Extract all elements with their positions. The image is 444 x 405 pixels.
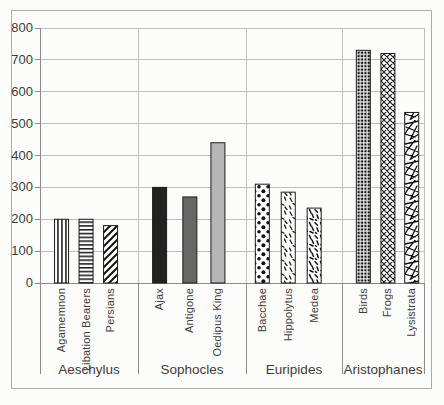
- bar-label-persians: Persians: [103, 288, 118, 332]
- bar-label-lysistrata: Lysistrata: [404, 288, 419, 337]
- bar-lysistrata: [405, 112, 419, 283]
- chart-figure: 0100200300400500600700800 AgamemnonLibat…: [0, 0, 444, 405]
- bar-label-bacchae: Bacchae: [255, 288, 270, 332]
- bar-medea: [307, 208, 321, 283]
- bar-persians: [104, 226, 118, 283]
- bar-oedipus-king: [211, 143, 225, 283]
- group-label-sophocles: Sophocles: [138, 361, 246, 379]
- bar-antigone: [183, 197, 197, 283]
- bar-agamemnon: [55, 219, 69, 283]
- bar-hippolytus: [281, 192, 295, 283]
- group-label-euripides: Euripides: [246, 361, 342, 379]
- y-tick-label: 100: [0, 243, 33, 259]
- y-tick-label: 500: [0, 116, 33, 132]
- bar-libation-bearers: [79, 219, 93, 283]
- group-label-aeschylus: Aeschylus: [40, 361, 138, 379]
- bar-label-antigone: Antigone: [182, 288, 197, 333]
- y-tick-label: 200: [0, 211, 33, 227]
- y-tick-label: 300: [0, 179, 33, 195]
- bar-bacchae: [255, 184, 269, 283]
- bar-label-oedipus-king: Oedipus King: [210, 288, 225, 356]
- y-tick-label: 800: [0, 20, 33, 36]
- bar-ajax: [153, 187, 167, 283]
- bar-label-medea: Medea: [307, 288, 322, 323]
- bar-label-ajax: Ajax: [152, 288, 167, 310]
- bar-label-birds: Birds: [356, 288, 371, 314]
- y-tick-label: 700: [0, 52, 33, 68]
- bar-layer: [55, 50, 419, 283]
- bar-label-hippolytus: Hippolytus: [281, 288, 296, 341]
- y-tick-label: 0: [0, 275, 33, 291]
- bar-label-libation-bearers: Libation Bearers: [79, 288, 94, 371]
- group-label-aristophanes: Aristophanes: [342, 361, 424, 379]
- bar-birds: [356, 50, 370, 283]
- bar-label-agamemnon: Agamemnon: [54, 288, 69, 352]
- y-tick-label: 600: [0, 84, 33, 100]
- bar-label-frogs: Frogs: [380, 288, 395, 317]
- bar-frogs: [381, 54, 395, 284]
- y-tick-label: 400: [0, 148, 33, 164]
